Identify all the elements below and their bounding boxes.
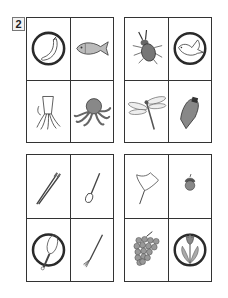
squid-icon	[27, 81, 70, 142]
group-1-grid	[26, 17, 114, 143]
cell-whisk[interactable]	[27, 218, 70, 281]
stag-beetle-icon	[125, 18, 168, 80]
octopus-icon	[71, 81, 113, 142]
question-number: 2	[12, 17, 25, 31]
cell-spoon[interactable]	[70, 155, 113, 218]
fork-icon	[71, 219, 113, 281]
cell-squid[interactable]	[27, 80, 70, 142]
cell-ginkgo-leaf[interactable]	[125, 155, 168, 218]
acorn-icon	[169, 155, 211, 218]
cell-stag-beetle[interactable]	[125, 18, 168, 80]
fish-icon	[71, 18, 113, 80]
ginkgo-leaf-icon	[125, 155, 168, 218]
cell-banana[interactable]	[27, 18, 70, 80]
cell-fish[interactable]	[70, 18, 113, 80]
tulip-icon	[169, 219, 211, 281]
spoon-icon	[71, 155, 113, 218]
bird-icon	[169, 18, 211, 80]
cell-octopus[interactable]	[70, 80, 113, 142]
cell-grapes[interactable]	[125, 218, 168, 281]
chopsticks-icon	[27, 155, 70, 218]
grapes-icon	[125, 219, 168, 281]
dragonfly-icon	[125, 81, 168, 142]
cell-fork[interactable]	[70, 218, 113, 281]
banana-icon	[27, 18, 70, 80]
cell-chopsticks[interactable]	[27, 155, 70, 218]
cell-acorn[interactable]	[168, 155, 211, 218]
cell-cicada[interactable]	[168, 80, 211, 142]
group-3-grid	[26, 154, 114, 282]
whisk-icon	[27, 219, 70, 281]
group-2-grid	[124, 17, 212, 143]
cell-tulip[interactable]	[168, 218, 211, 281]
group-4-grid	[124, 154, 212, 282]
cell-bird[interactable]	[168, 18, 211, 80]
cell-dragonfly[interactable]	[125, 80, 168, 142]
cicada-icon	[169, 81, 211, 142]
